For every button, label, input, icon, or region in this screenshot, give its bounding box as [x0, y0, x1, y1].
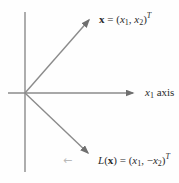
x1-axis-label: x1 axis — [145, 85, 174, 103]
vector-lx-label: L(x) = (x1, −x2)T — [98, 150, 170, 171]
transpose-superscript: T — [166, 152, 170, 161]
faint-left-arrow-icon: ← — [63, 154, 72, 167]
vector-lx-line — [25, 93, 88, 153]
close-equals-open: ) = ( — [113, 154, 132, 166]
vector-x-line — [25, 20, 89, 93]
vector-x-label: x = (x1, x2)T — [99, 9, 151, 30]
transpose-superscript: T — [147, 11, 151, 20]
axis-word: axis — [154, 86, 174, 98]
vector-reflection-diagram: x = (x1, x2)T x1 axis L(x) = (x1, −x2)T … — [0, 0, 179, 183]
equals-open: = ( — [105, 13, 120, 25]
